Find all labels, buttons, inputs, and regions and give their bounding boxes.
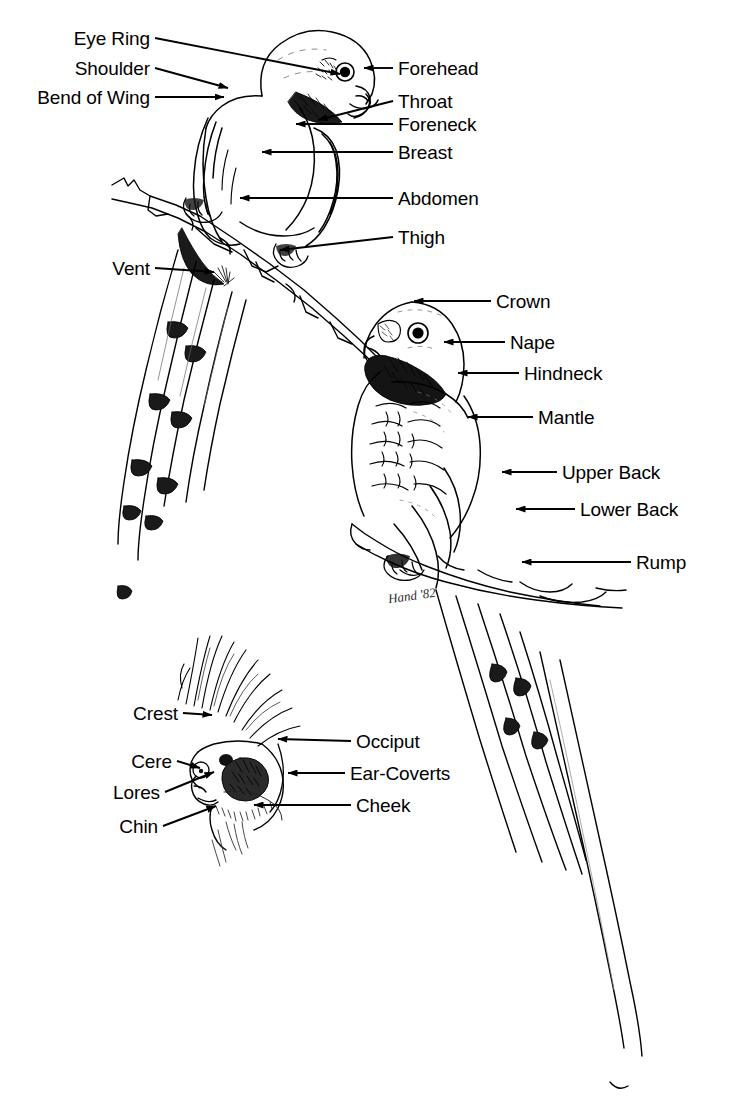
label-nape: Nape <box>510 333 555 352</box>
label-crest: Crest <box>133 704 178 723</box>
label-chin: Chin <box>119 817 158 836</box>
label-crown: Crown <box>496 292 550 311</box>
label-cere: Cere <box>131 752 172 771</box>
label-rump: Rump <box>636 553 686 572</box>
bird-topography-diagram: Eye RingShoulderBend of WingVentForehead… <box>0 0 730 1105</box>
label-ear-coverts: Ear-Coverts <box>350 764 450 783</box>
label-lower-back: Lower Back <box>580 500 678 519</box>
label-occiput: Occiput <box>356 732 420 751</box>
label-forehead: Forehead <box>398 59 479 78</box>
label-hindneck: Hindneck <box>524 364 602 383</box>
label-cheek: Cheek <box>356 796 410 815</box>
label-throat: Throat <box>398 92 452 111</box>
label-shoulder: Shoulder <box>75 59 150 78</box>
label-thigh: Thigh <box>398 228 445 247</box>
label-vent: Vent <box>112 259 150 278</box>
label-breast: Breast <box>398 143 452 162</box>
label-foreneck: Foreneck <box>398 115 476 134</box>
label-lores: Lores <box>113 783 160 802</box>
label-upper-back: Upper Back <box>562 463 660 482</box>
label-abdomen: Abdomen <box>398 189 479 208</box>
diagram-artwork <box>0 0 730 1105</box>
label-eye-ring: Eye Ring <box>74 29 150 48</box>
label-mantle: Mantle <box>538 408 594 427</box>
label-bend-of-wing: Bend of Wing <box>37 88 150 107</box>
